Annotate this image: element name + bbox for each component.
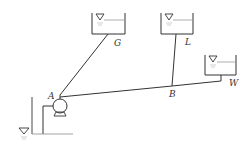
pipe-network-diagram: G L W B A [0,0,251,150]
reservoir-g [92,13,125,34]
reservoir-l [161,13,193,34]
water-level-icon [165,14,173,20]
pump [43,95,67,134]
label-a: A [47,91,55,101]
water-level-icon [209,56,217,62]
water-level-icon [19,128,29,134]
reservoir-w [205,55,236,75]
label-g: G [114,38,121,48]
pipe-a-g [60,34,108,95]
label-l: L [184,37,191,47]
water-level-icon [96,14,104,20]
label-b: B [168,89,176,99]
label-w: W [229,78,239,88]
pipe-b-l [172,34,176,86]
pipe-b-w [172,81,221,86]
pipe-a-b [60,86,172,97]
